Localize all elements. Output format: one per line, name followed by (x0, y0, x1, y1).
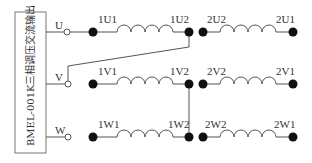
terminal-v-label: V (55, 71, 63, 83)
node-1v2-icon (185, 80, 194, 89)
label-1v1: 1V1 (98, 65, 117, 77)
node-1v1-icon (89, 80, 98, 89)
label-1w2: 1W2 (168, 118, 189, 130)
terminal-u-icon (64, 29, 70, 35)
label-2w1: 2W1 (274, 118, 295, 130)
wiring-diagram: BMEL-001K三相调压交流输出 (0, 0, 312, 163)
label-1u1: 1U1 (98, 13, 117, 25)
label-1w1: 1W1 (98, 118, 119, 130)
label-2w2: 2W2 (205, 118, 226, 130)
node-2w1-icon (289, 133, 298, 142)
node-2v2-icon (199, 80, 208, 89)
terminal-w-label: W (55, 124, 66, 136)
node-2u2-icon (199, 28, 208, 37)
output-box-label: BMEL-001K三相调压交流输出 (24, 5, 36, 146)
node-1w1-icon (89, 133, 98, 142)
terminal-v-icon (65, 81, 71, 87)
node-2u1-icon (289, 28, 298, 37)
node-1w2-icon (185, 133, 194, 142)
terminal-u-label: U (55, 19, 63, 31)
label-2u1: 2U1 (276, 13, 295, 25)
label-2u2: 2U2 (207, 13, 226, 25)
node-1u2-icon (185, 28, 194, 37)
label-2v1: 2V1 (276, 65, 295, 77)
label-2v2: 2V2 (207, 65, 226, 77)
label-1v2: 1V2 (170, 65, 189, 77)
node-1u1-icon (89, 28, 98, 37)
terminal-w-icon (65, 134, 71, 140)
node-2w2-icon (199, 133, 208, 142)
node-2v1-icon (289, 80, 298, 89)
label-1u2: 1U2 (170, 13, 189, 25)
